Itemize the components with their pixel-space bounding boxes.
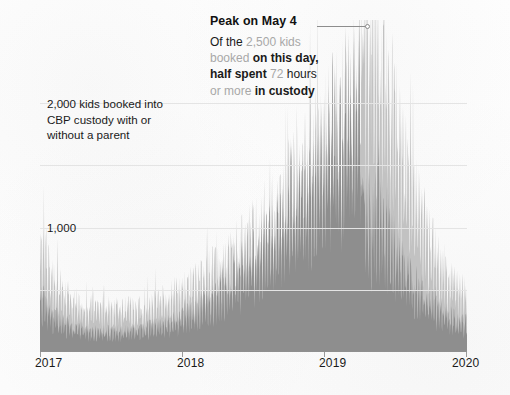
callout-line-1: Of the 2,500 kids — [210, 34, 350, 50]
callout-l3-dark: half spent — [210, 67, 270, 81]
callout-line-4: or more in custody — [210, 83, 350, 99]
callout-l3-gray: 72 — [270, 67, 287, 81]
gridline-1500 — [40, 165, 467, 166]
x-axis-line — [40, 351, 467, 352]
peak-callout-body: Of the 2,500 kids booked on this day, ha… — [210, 34, 350, 99]
figure-canvas: 2017 2018 2019 2020 1,000 2,000 kids boo… — [0, 0, 510, 395]
ytick-label-1000: 1,000 — [47, 222, 76, 234]
annotation-left-line-3: without a parent — [47, 127, 207, 143]
callout-l1-gray: 2,500 kids — [246, 35, 301, 49]
callout-l2-gray: booked — [210, 51, 253, 65]
callout-l2-dark: on this day, — [253, 51, 319, 65]
callout-line-2: booked on this day, — [210, 50, 350, 66]
xtick-label-2019: 2019 — [319, 356, 347, 370]
peak-leader-line — [317, 26, 367, 27]
callout-l4-gray: or more — [210, 84, 255, 98]
callout-l4-dark: in custody — [255, 84, 315, 98]
peak-marker-icon — [365, 24, 370, 29]
annotation-left-line-1: 2,000 kids booked into — [47, 96, 207, 112]
callout-l1-dark: Of the — [210, 35, 246, 49]
xtick-label-2020: 2020 — [452, 356, 480, 370]
xtick-label-2018: 2018 — [177, 356, 205, 370]
gridline-1000 — [40, 228, 467, 229]
callout-line-3: half spent 72 hours — [210, 66, 350, 82]
annotation-left-line-2: CBP custody with or — [47, 112, 207, 128]
annotation-left: 2,000 kids booked into CBP custody with … — [47, 96, 207, 143]
callout-l3-dark2: hours — [287, 67, 317, 81]
gridline-500 — [40, 290, 467, 291]
xtick-label-2017: 2017 — [35, 356, 63, 370]
